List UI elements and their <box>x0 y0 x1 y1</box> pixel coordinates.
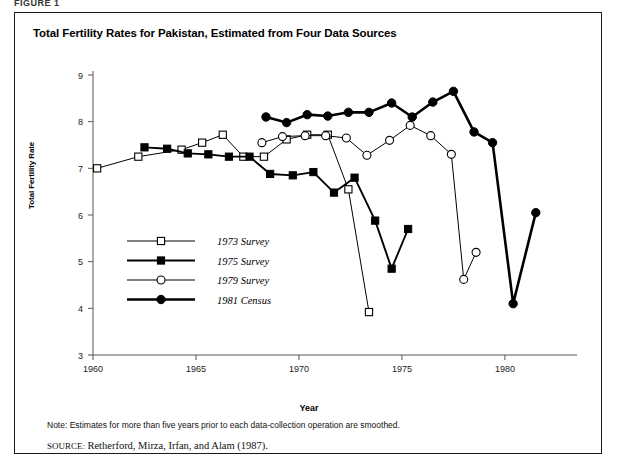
y-axis-tick-label: 8 <box>78 117 83 127</box>
data-point <box>460 275 468 283</box>
series-4 <box>262 87 540 308</box>
data-point <box>135 153 142 160</box>
series-2 <box>141 144 412 273</box>
data-point <box>301 132 309 140</box>
data-point <box>282 118 290 126</box>
data-point <box>260 153 267 160</box>
data-point <box>310 168 317 175</box>
series-line <box>144 147 408 268</box>
data-point <box>509 299 517 307</box>
legend-label: 1979 Survey <box>217 275 270 286</box>
legend-marker <box>157 276 165 284</box>
data-point <box>488 138 496 146</box>
data-point <box>322 132 330 140</box>
y-axis-tick-label: 7 <box>78 164 83 174</box>
data-point <box>408 113 416 121</box>
data-point <box>278 133 286 141</box>
figure-number: FIGURE 1 <box>14 0 60 8</box>
data-point <box>262 113 270 121</box>
data-point <box>199 139 206 146</box>
y-axis-tick-label: 4 <box>78 304 83 314</box>
data-point <box>94 165 101 172</box>
data-point <box>246 153 253 160</box>
legend-marker <box>157 237 164 244</box>
data-point <box>372 217 379 224</box>
data-point <box>267 170 274 177</box>
x-axis-tick-label: 1960 <box>83 364 103 374</box>
data-point <box>184 150 191 157</box>
data-point <box>405 225 412 232</box>
data-point <box>447 150 455 158</box>
data-point <box>365 308 372 315</box>
data-point <box>449 87 457 95</box>
series-1 <box>94 131 373 316</box>
data-point <box>363 151 371 159</box>
data-point <box>472 248 480 256</box>
data-point <box>365 108 373 116</box>
source-text: Retherford, Mirza, Irfan, and Alam (1987… <box>87 440 267 451</box>
data-point <box>303 110 311 118</box>
data-point <box>351 174 358 181</box>
data-point <box>386 136 394 144</box>
data-point <box>141 144 148 151</box>
fertility-line-chart: 3456789196019651970197519801973 Survey19… <box>31 59 587 395</box>
x-axis-tick-label: 1965 <box>186 364 206 374</box>
data-point <box>225 153 232 160</box>
series-3 <box>258 121 480 283</box>
legend-label: 1981 Census <box>217 295 271 306</box>
x-axis-tick-label: 1980 <box>495 364 515 374</box>
data-point <box>532 208 540 216</box>
legend-marker <box>157 295 165 303</box>
legend-marker <box>157 257 164 264</box>
series-line <box>266 91 536 303</box>
data-point <box>429 98 437 106</box>
series-line <box>262 125 476 279</box>
data-point <box>470 128 478 136</box>
chart-area: Total Fertility Rate 3456789196019651970… <box>31 59 587 389</box>
x-axis-label: Year <box>31 403 587 413</box>
source-line: SOURCE: Retherford, Mirza, Irfan, and Al… <box>47 438 587 453</box>
chart-legend: 1973 Survey1975 Survey1979 Survey1981 Ce… <box>127 236 271 306</box>
data-point <box>219 131 226 138</box>
source-label: SOURCE: <box>47 441 85 451</box>
data-point <box>427 132 435 140</box>
x-axis-tick-label: 1975 <box>392 364 412 374</box>
data-point <box>388 265 395 272</box>
legend-label: 1975 Survey <box>217 256 270 267</box>
data-point <box>342 134 350 142</box>
y-axis-tick-label: 3 <box>78 351 83 361</box>
figure-notes: Note: Estimates for more than five years… <box>47 419 587 461</box>
data-point <box>330 189 337 196</box>
data-point <box>406 121 414 129</box>
data-point <box>345 186 352 193</box>
data-point <box>258 139 266 147</box>
figure-frame: Total Fertility Rates for Pakistan, Esti… <box>14 12 602 454</box>
data-point <box>164 145 171 152</box>
legend-label: 1973 Survey <box>217 236 270 247</box>
data-point <box>205 151 212 158</box>
y-axis-tick-label: 6 <box>78 211 83 221</box>
data-point <box>324 112 332 120</box>
data-point <box>289 172 296 179</box>
y-axis-tick-label: 5 <box>78 257 83 267</box>
y-axis-label: Total Fertility Rate <box>27 142 36 209</box>
data-point <box>387 99 395 107</box>
data-point <box>344 108 352 116</box>
note-text: Note: Estimates for more than five years… <box>47 419 587 431</box>
x-axis-tick-label: 1970 <box>289 364 309 374</box>
y-axis-tick-label: 9 <box>78 71 83 81</box>
page-title: Total Fertility Rates for Pakistan, Esti… <box>33 27 397 39</box>
